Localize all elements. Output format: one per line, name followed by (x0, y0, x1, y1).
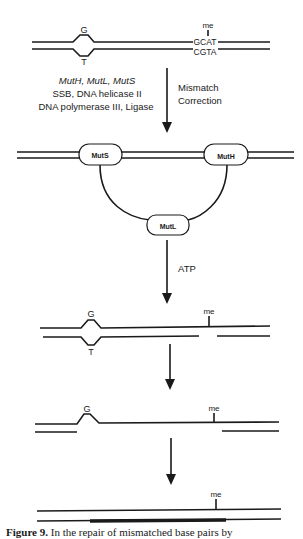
muts-label: MutS (91, 152, 108, 159)
dna-duplex-step4 (35, 413, 279, 432)
step1-site-bottom: CGTA (194, 47, 217, 57)
step5-methyl-label: me (210, 490, 222, 499)
mutl-label: MutL (160, 223, 177, 230)
arrowhead-1 (162, 122, 172, 133)
mismatch-repair-diagram: G T me GCAT CGTA MutH, MutL, MutS SSB, D… (0, 0, 303, 539)
step3-top-base: G (87, 309, 94, 319)
enzymes-line2: SSB, DNA helicase II (52, 88, 141, 99)
arrowhead-4 (166, 474, 176, 485)
step1-bottom-base: T (81, 57, 87, 67)
figure-caption-text: In the repair of mismatched base pairs b… (51, 526, 233, 538)
dna-duplex-step2 (17, 152, 294, 220)
step3-bottom-base: T (88, 347, 94, 357)
arrow2-label: ATP (178, 263, 196, 274)
figure-caption: Figure 9. In the repair of mismatched ba… (6, 526, 232, 538)
muth-label: MutH (217, 153, 235, 160)
step3-methyl-label: me (203, 307, 215, 316)
dna-duplex-step5 (37, 499, 281, 521)
dna-duplex-step3 (40, 316, 270, 345)
enzymes-line1: MutH, MutL, MutS (59, 75, 136, 86)
figure-label: Figure 9. (6, 526, 48, 538)
enzymes-line3: DNA polymerase III, Ligase (38, 101, 153, 112)
step4-methyl-label: me (208, 404, 220, 413)
newly-synthesized-strand (90, 520, 226, 521)
arrowhead-2 (162, 293, 172, 304)
arrow1-label-line2: Correction (178, 95, 222, 106)
dna-duplex-step1 (32, 30, 270, 56)
step1-site-top: GCAT (194, 37, 217, 47)
step1-methyl-label: me (202, 21, 214, 30)
step1-top-base: G (80, 25, 87, 35)
arrowhead-3 (165, 379, 175, 390)
step4-top-base: G (83, 404, 90, 414)
arrow1-label-line1: Mismatch (178, 82, 219, 93)
